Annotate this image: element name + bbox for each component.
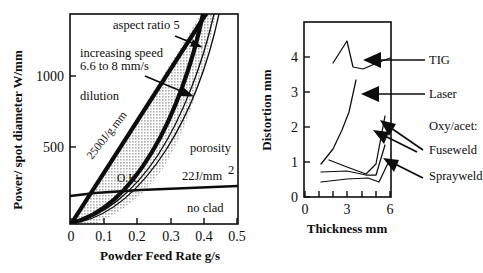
series-label-fuseweld: Fuseweld (429, 143, 478, 157)
y-tick-label-2: 2 (291, 120, 298, 135)
region-label-dilution: dilution (80, 89, 120, 103)
x-tick-label-0: 0 (302, 202, 309, 217)
region-label-porosity: porosity (190, 141, 232, 155)
x-tick-label-0_1: 0.1 (95, 229, 113, 244)
region-label-ok: O.K. (117, 172, 139, 184)
x-tick-label-0_4: 0.4 (195, 229, 213, 244)
y-tick-label-1: 1 (291, 155, 298, 170)
y-tick-label-4: 4 (291, 50, 298, 65)
x-tick-label-0_2: 0.2 (128, 229, 146, 244)
x-axis-title: Powder Feed Rate g/s (100, 248, 220, 263)
curve-label-22j-superscript: 2 (228, 163, 234, 177)
y-tick-label-1000: 1000 (36, 69, 64, 84)
process-map-svg: 1000 500 0 0.1 0.2 0.3 0.4 0.5 Powder Fe… (0, 0, 255, 273)
x-tick-label-3: 3 (344, 202, 351, 217)
series-label-tig: TIG (429, 53, 450, 67)
series-label-oxyacet: Oxy/acet: (429, 119, 478, 133)
x-tick-label-0_3: 0.3 (162, 229, 180, 244)
annotation-aspect-ratio-5: aspect ratio 5 (113, 18, 180, 32)
x-tick-label-0_5: 0.5 (228, 229, 246, 244)
x-tick-label-6: 6 (387, 202, 394, 217)
annotation-increasing-speed-line2: 6.6 to 8 mm/s (80, 59, 149, 73)
x-axis-title: Thickness mm (307, 221, 388, 236)
figure-root: 1000 500 0 0.1 0.2 0.3 0.4 0.5 Powder Fe… (0, 0, 483, 273)
distortion-svg: 0 1 2 3 4 0 3 6 Thickness mm Distortion … (255, 0, 483, 273)
y-tick-label-0: 0 (291, 190, 298, 205)
y-tick-label-3: 3 (291, 85, 298, 100)
series-label-sprayweld: Sprayweld (429, 169, 483, 183)
curve-label-22j-base: 22J/mm (182, 169, 223, 183)
chart-distortion-comparison: 0 1 2 3 4 0 3 6 Thickness mm Distortion … (255, 0, 483, 273)
x-tick-label-0: 0 (68, 229, 75, 244)
y-tick-label-500: 500 (43, 140, 64, 155)
series-label-laser: Laser (429, 87, 458, 101)
y-axis-title: Power/ spot diameter W/mm (10, 50, 25, 210)
y-axis-title: Distortion mm (259, 69, 274, 150)
region-label-no-clad: no clad (187, 201, 224, 215)
annotation-increasing-speed-line1: increasing speed (80, 46, 164, 60)
chart-process-map: 1000 500 0 0.1 0.2 0.3 0.4 0.5 Powder Fe… (0, 0, 255, 273)
